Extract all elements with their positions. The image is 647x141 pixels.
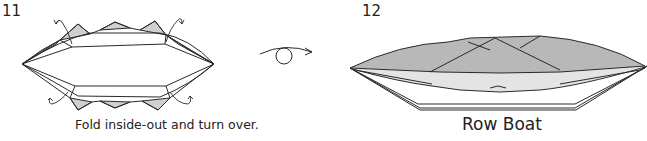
turn-over-icon: [260, 47, 312, 64]
step-number: 11: [2, 2, 21, 20]
step-caption: Fold inside-out and turn over.: [75, 117, 259, 132]
step-number: 12: [362, 2, 381, 20]
step11-model: [22, 21, 214, 110]
row-boat-model: [350, 36, 647, 110]
model-title: Row Boat: [462, 114, 542, 134]
